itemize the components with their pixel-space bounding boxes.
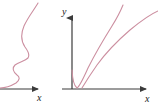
left-plot: [0, 3, 38, 89]
left-plot-wiggly-curve: [0, 3, 38, 88]
two-graph-figure: x x y: [0, 0, 158, 108]
right-plot-right-branch: [82, 11, 158, 88]
right-plot-left-branch: [72, 5, 123, 88]
right-plot: [62, 5, 158, 89]
right-plot-x-axis-label: x: [145, 94, 149, 104]
right-plot-y-axis-label: y: [62, 7, 66, 17]
left-plot-x-axis-label: x: [37, 93, 41, 103]
figure-canvas: [0, 0, 158, 108]
